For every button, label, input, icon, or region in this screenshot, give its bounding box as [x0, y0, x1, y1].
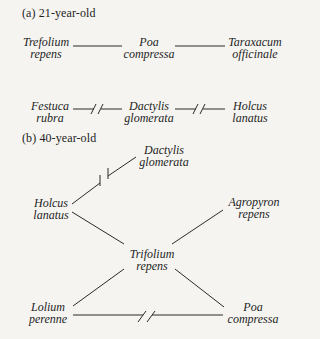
node-a-holcus-lanatus: Holcus lanatus — [232, 100, 267, 124]
node-label-line2: lanatus — [33, 209, 68, 221]
node-a-festuca-rubra: Festuca rubra — [31, 100, 69, 124]
node-label-line2: repens — [23, 48, 69, 60]
node-label-line2: lanatus — [232, 112, 267, 124]
node-label-line2: compressa — [124, 48, 175, 60]
node-b-lolium-perenne: Lolium perenne — [29, 301, 67, 325]
node-b-trifolium-repens: Trifolium repens — [130, 248, 175, 272]
edge-holcus-dactylis — [72, 157, 136, 204]
edge-poa-trifolium — [175, 269, 224, 307]
node-a-poa-compressa: Poa compressa — [124, 36, 175, 60]
node-label-line2: rubra — [31, 112, 69, 124]
node-b-dactylis-glomerata: Dactylis glomerata — [139, 144, 188, 168]
edge-festuca-dactylis — [73, 104, 122, 114]
node-b-agropyron-repens: Agropyron repens — [228, 196, 279, 220]
edge-lolium-trifolium — [73, 269, 124, 306]
node-label-line2: perenne — [29, 313, 67, 325]
node-label-line2: glomerata — [139, 156, 188, 168]
node-a-taraxacum-officinale: Taraxacum officinale — [228, 36, 282, 60]
node-label-line2: repens — [130, 260, 175, 272]
edge-lolium-poa — [73, 311, 223, 322]
node-a-trefolium-repens: Trefolium repens — [23, 36, 69, 60]
edge-dactylis-holcus — [175, 104, 225, 114]
node-label-line2: officinale — [228, 48, 282, 60]
node-label-line2: compressa — [228, 313, 279, 325]
edge-agropyron-trifolium — [172, 210, 223, 244]
edge-holcus-trifolium — [72, 212, 124, 244]
node-b-holcus-lanatus: Holcus lanatus — [33, 197, 68, 221]
node-b-poa-compressa: Poa compressa — [228, 301, 279, 325]
node-label-line2: glomerata — [124, 112, 173, 124]
node-a-dactylis-glomerata: Dactylis glomerata — [124, 100, 173, 124]
node-label-line2: repens — [228, 208, 279, 220]
